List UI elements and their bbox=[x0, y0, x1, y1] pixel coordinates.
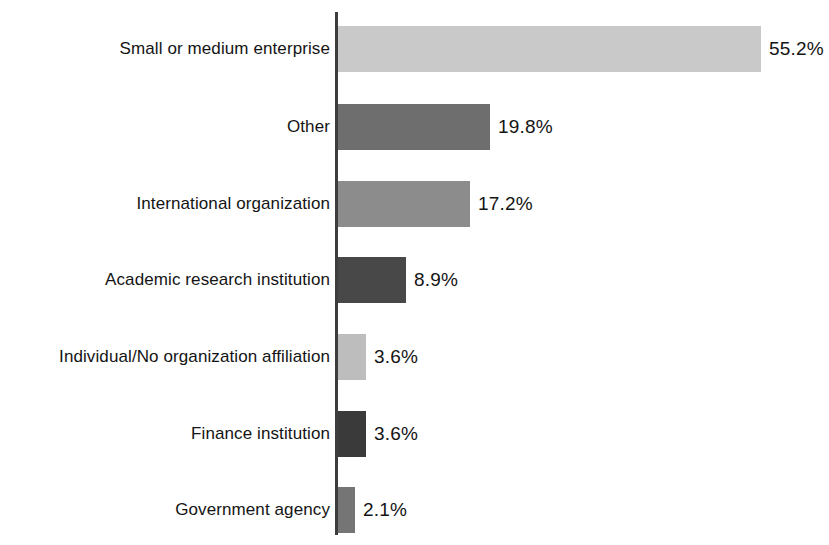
bar bbox=[338, 334, 366, 380]
value-label: 19.8% bbox=[498, 104, 553, 150]
value-label: 2.1% bbox=[363, 487, 407, 533]
value-label: 17.2% bbox=[478, 181, 533, 227]
bar-row: Government agency 2.1% bbox=[0, 487, 829, 533]
bar bbox=[338, 104, 490, 150]
value-label: 3.6% bbox=[374, 334, 418, 380]
category-label: Government agency bbox=[175, 487, 330, 533]
bar-row: Individual/No organization affiliation 3… bbox=[0, 334, 829, 380]
bar bbox=[338, 411, 366, 457]
bar bbox=[338, 26, 761, 72]
bar-row: Academic research institution 8.9% bbox=[0, 257, 829, 303]
value-label: 8.9% bbox=[414, 257, 458, 303]
category-label: Individual/No organization affiliation bbox=[59, 334, 330, 380]
bar bbox=[338, 181, 470, 227]
bar-row: Finance institution 3.6% bbox=[0, 411, 829, 457]
bar-row: International organization 17.2% bbox=[0, 181, 829, 227]
value-label: 3.6% bbox=[374, 411, 418, 457]
category-label: Other bbox=[287, 104, 330, 150]
bar-row: Small or medium enterprise 55.2% bbox=[0, 26, 829, 72]
category-label: International organization bbox=[136, 181, 330, 227]
category-label: Small or medium enterprise bbox=[120, 26, 330, 72]
bar-chart: Small or medium enterprise 55.2% Other 1… bbox=[0, 0, 829, 545]
bar-row: Other 19.8% bbox=[0, 104, 829, 150]
bar bbox=[338, 257, 406, 303]
value-label: 55.2% bbox=[769, 26, 824, 72]
category-label: Academic research institution bbox=[105, 257, 330, 303]
category-label: Finance institution bbox=[191, 411, 330, 457]
bar bbox=[338, 487, 355, 533]
